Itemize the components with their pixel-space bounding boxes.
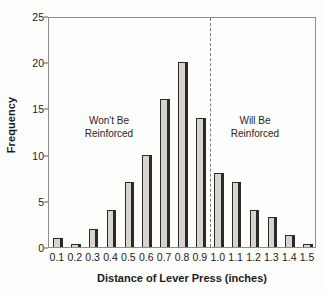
x-tick-label: 0.6 [139, 251, 154, 263]
x-tick-label: 0.3 [85, 251, 100, 263]
x-tick-label: 0.1 [50, 251, 65, 263]
bar [268, 217, 278, 247]
x-tick-label: 1.3 [264, 251, 279, 263]
x-tick-label: 1.2 [246, 251, 261, 263]
annotation-left-line1: Won't Be [61, 114, 157, 127]
y-axis-label-container: Frequency [0, 0, 22, 250]
x-tick-label: 1.0 [210, 251, 225, 263]
annotation-right-line2: Reinforced [207, 127, 303, 140]
bar [178, 62, 188, 247]
bar [214, 173, 224, 247]
x-tick-label: 0.4 [103, 251, 118, 263]
x-axis-label: Distance of Lever Press (inches) [48, 272, 316, 284]
x-tick-label: 0.2 [67, 251, 82, 263]
plot-inner: Won't Be Reinforced Will Be Reinforced [49, 18, 315, 247]
x-tick-label: 1.4 [282, 251, 297, 263]
annotation-right-line1: Will Be [207, 114, 303, 127]
x-tick-label: 0.7 [157, 251, 172, 263]
x-tick-label: 0.5 [121, 251, 136, 263]
bar [142, 155, 152, 247]
bar [285, 235, 295, 247]
y-tick-label: 10 [32, 150, 44, 162]
y-tick-label: 25 [32, 11, 44, 23]
bar [107, 210, 117, 247]
annotation-wont-be-reinforced: Won't Be Reinforced [61, 114, 157, 140]
bar [196, 118, 206, 247]
bar [89, 229, 99, 247]
x-tick-label: 0.9 [193, 251, 208, 263]
bar [303, 244, 313, 247]
plot-area: Won't Be Reinforced Will Be Reinforced [48, 17, 316, 248]
y-axis-ticks: 0510152025 [22, 0, 48, 294]
bar [53, 238, 63, 247]
bar [71, 244, 81, 247]
x-tick-label: 1.1 [228, 251, 243, 263]
x-tick-label: 0.8 [175, 251, 190, 263]
annotation-will-be-reinforced: Will Be Reinforced [207, 114, 303, 140]
bar [250, 210, 260, 247]
bar [232, 182, 242, 247]
bar [160, 99, 170, 247]
y-axis-label: Frequency [5, 97, 17, 154]
y-tick-label: 15 [32, 103, 44, 115]
histogram-figure: Frequency 0510152025 Won't Be Reinforced… [0, 0, 325, 294]
x-tick-label: 1.5 [300, 251, 315, 263]
x-axis-ticks: 0.10.20.30.40.50.60.70.80.91.01.11.21.31… [48, 249, 316, 267]
bar [125, 182, 135, 247]
y-tick-label: 20 [32, 57, 44, 69]
annotation-left-line2: Reinforced [61, 127, 157, 140]
